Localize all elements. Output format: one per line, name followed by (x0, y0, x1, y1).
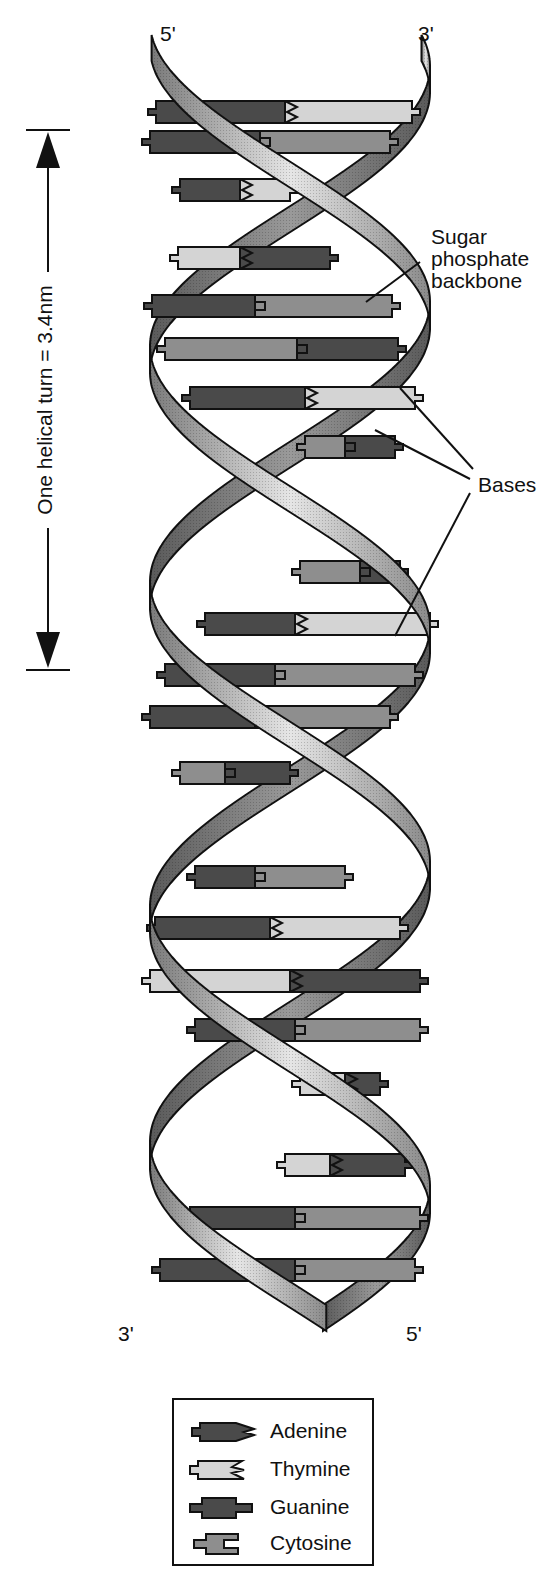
base-pair (182, 1207, 428, 1229)
legend-item-thymine: Thymine (174, 1454, 372, 1484)
bottom-right-5-prime-label: 5' (406, 1322, 422, 1346)
adenine-base (147, 917, 270, 939)
cytosine-base (255, 295, 400, 317)
thymine-base (170, 247, 240, 269)
legend-label-guanine: Guanine (270, 1492, 349, 1522)
adenine-base (172, 179, 240, 201)
thymine-base (277, 1154, 330, 1176)
cytosine-base (297, 436, 345, 458)
legend-label-cytosine: Cytosine (270, 1528, 352, 1558)
top-left-5-prime-label: 5' (160, 22, 176, 46)
base-pair (152, 1259, 423, 1281)
base-pair (182, 387, 423, 409)
cytosine-base (295, 1019, 428, 1041)
base-pair (297, 436, 403, 458)
adenine-base (290, 970, 428, 992)
legend-label-thymine: Thymine (270, 1454, 351, 1484)
legend: Adenine Thymine Guanine Cytosine (172, 1398, 374, 1566)
guanine-base (297, 338, 406, 360)
base-pair (157, 338, 406, 360)
cytosine-base (295, 1207, 428, 1229)
bases-leader-line-3 (395, 493, 470, 636)
thymine-base (305, 387, 423, 409)
thymine-base (270, 917, 408, 939)
helical-turn-label: One helical turn = 3.4nm (33, 285, 57, 514)
guanine-base (144, 295, 255, 317)
legend-item-adenine: Adenine (174, 1416, 372, 1446)
base-pair (170, 247, 338, 269)
backbone-label-line2: phosphate (431, 247, 529, 271)
adenine-icon (188, 1420, 268, 1444)
adenine-base (330, 1154, 413, 1176)
cytosine-base (292, 561, 360, 583)
base-pair (277, 1154, 413, 1176)
thymine-icon (188, 1458, 268, 1482)
cytosine-base (157, 338, 297, 360)
thymine-base (285, 101, 420, 123)
cytosine-base (275, 664, 423, 686)
base-pair (144, 295, 400, 317)
thymine-base (295, 613, 438, 635)
dna-diagram: 5' 3' 3' 5' One helical turn = 3.4nm Sug… (0, 0, 550, 1596)
legend-item-guanine: Guanine (174, 1492, 372, 1522)
base-pair (187, 866, 353, 888)
arrow-up-icon (36, 132, 60, 168)
adenine-base (182, 387, 305, 409)
cytosine-base (255, 866, 353, 888)
backbone-label-line3: backbone (431, 269, 522, 293)
bases-leader-line-1 (400, 388, 473, 469)
double-helix-illustration (0, 0, 550, 1340)
guanine-base (187, 866, 255, 888)
adenine-base (197, 613, 295, 635)
guanine-icon (188, 1496, 268, 1520)
cytosine-icon (188, 1532, 268, 1556)
top-right-3-prime-label: 3' (418, 22, 434, 46)
arrow-down-icon (36, 632, 60, 668)
adenine-base (240, 247, 338, 269)
base-pair (147, 917, 408, 939)
legend-item-cytosine: Cytosine (174, 1528, 372, 1558)
bottom-left-3-prime-label: 3' (118, 1322, 134, 1346)
bases-label: Bases (478, 473, 536, 497)
base-pair (172, 179, 298, 201)
legend-label-adenine: Adenine (270, 1416, 347, 1446)
base-pair (172, 762, 298, 784)
cytosine-base (295, 1259, 423, 1281)
cytosine-base (260, 131, 398, 153)
cytosine-base (172, 762, 225, 784)
backbone-label-line1: Sugar (431, 225, 487, 249)
